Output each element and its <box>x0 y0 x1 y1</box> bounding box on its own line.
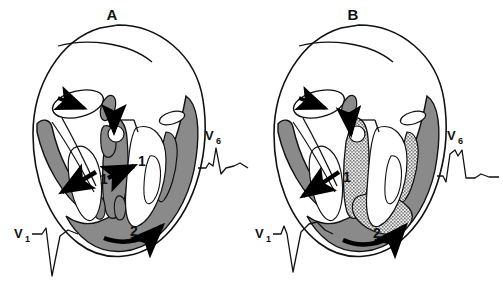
ecg-lead-v1-label-b: V <box>255 226 264 241</box>
ecg-lead-v1-subscript-a: 1 <box>25 234 30 244</box>
ecg-lead-v6-b: V 6 <box>437 128 499 182</box>
cardiac-activation-figure: A <box>0 0 503 281</box>
activation-step-number-2-b: 2 <box>373 225 381 241</box>
activation-step-number-1-left-a: 1 <box>100 171 108 187</box>
ecg-lead-v6-a: V 6 <box>198 128 248 174</box>
ecg-lead-v6-subscript-a: 6 <box>216 136 221 146</box>
panel-a: A <box>0 0 251 281</box>
ecg-lead-v1-subscript-b: 1 <box>266 234 271 244</box>
panel-letter-a: A <box>107 6 118 23</box>
ecg-lead-v6-label-b: V <box>447 128 456 143</box>
ecg-lead-v1-label-a: V <box>14 226 23 241</box>
panel-b: B <box>251 0 502 281</box>
his-bundle-arrow-b <box>349 112 351 134</box>
activation-step-number-1-right-a: 1 <box>138 153 146 169</box>
panel-a-svg: A <box>0 0 251 281</box>
activation-step-number-1-b: 1 <box>343 169 351 185</box>
panel-letter-b: B <box>348 6 359 23</box>
ecg-lead-v6-subscript-b: 6 <box>458 136 463 146</box>
ecg-lead-v6-label-a: V <box>205 128 214 143</box>
activation-step-number-2-a: 2 <box>130 223 138 239</box>
panel-b-svg: B <box>251 0 503 281</box>
